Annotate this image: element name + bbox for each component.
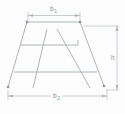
b1-arrow-left: [28, 14, 33, 17]
rear-right-leg: [57, 29, 90, 88]
trestle-structure: [8, 22, 104, 88]
h-arrow-top: [116, 26, 119, 31]
rear-left-leg: [33, 29, 47, 88]
technical-drawing-canvas: b1 b2 h: [0, 0, 125, 114]
b2-arrow-right: [102, 95, 107, 98]
trestle-drawing: [0, 0, 125, 114]
b2-arrow-left: [8, 95, 13, 98]
joint-dots: [7, 21, 106, 89]
h-label: h: [111, 54, 115, 61]
b2-subscript: 2: [57, 95, 60, 101]
b1-subscript: 1: [54, 8, 57, 14]
top-left-joint-dot: [26, 21, 29, 24]
top-right-joint-dot: [79, 21, 82, 24]
dimension-label-h: h: [111, 54, 115, 61]
dimension-label-b2: b2: [51, 92, 62, 102]
front-left-leg: [8, 22, 27, 87]
dimension-label-b1: b1: [50, 5, 57, 15]
h-arrow-bottom: [116, 85, 119, 90]
upper-cross-rail: [21, 40, 78, 45]
bottom-right-foot-dot: [103, 85, 106, 88]
bottom-left-foot-dot: [7, 86, 10, 89]
b1-arrow-right: [75, 14, 80, 17]
